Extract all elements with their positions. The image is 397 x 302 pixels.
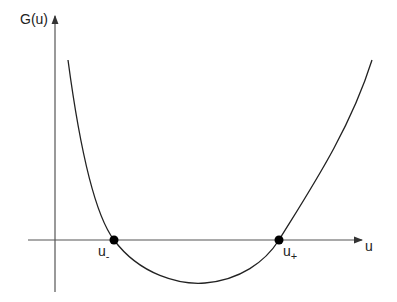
root-plus-label: u+: [283, 243, 297, 259]
root-minus-label: u-: [98, 243, 109, 259]
g-curve: [68, 60, 372, 283]
diagram-canvas: [0, 0, 397, 302]
y-axis-label: G(u): [20, 11, 48, 27]
x-axis-label: u: [365, 238, 373, 254]
root-minus-dot: [110, 236, 119, 245]
